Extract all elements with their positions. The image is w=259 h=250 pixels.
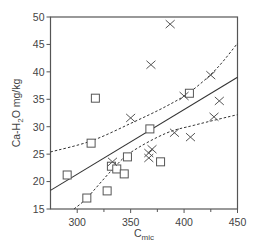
cross-marker	[206, 71, 215, 79]
cross-marker	[144, 154, 153, 162]
y-tick-label: 50	[33, 11, 45, 23]
cross-marker	[148, 145, 157, 153]
square-marker	[113, 165, 121, 173]
square-marker	[146, 125, 154, 133]
cross-marker	[126, 114, 135, 122]
scatter-chart: 3003504004501520253035404550 Cmic Ca-H2O…	[0, 0, 259, 250]
cross-marker	[215, 97, 224, 105]
square-marker	[157, 158, 165, 166]
cross-marker	[209, 113, 218, 121]
regression-line	[51, 77, 238, 190]
regression-lines	[51, 43, 238, 209]
data-markers	[63, 20, 224, 202]
y-tick-label: 25	[33, 148, 45, 160]
x-tick-label: 300	[68, 216, 86, 228]
y-tick-label: 40	[33, 66, 45, 78]
cross-marker	[186, 133, 195, 141]
y-tick-label: 30	[33, 121, 45, 133]
square-marker	[120, 170, 128, 178]
cross-marker	[146, 61, 155, 69]
y-tick-label: 35	[33, 93, 45, 105]
square-marker	[87, 139, 95, 147]
cross-marker	[170, 129, 179, 137]
square-marker	[63, 171, 71, 179]
x-tick-label: 400	[175, 216, 193, 228]
square-marker	[103, 187, 111, 195]
y-tick-label: 20	[33, 175, 45, 187]
square-marker	[83, 194, 91, 202]
x-tick-label: 450	[229, 216, 247, 228]
cross-marker	[166, 20, 175, 28]
y-tick-label: 45	[33, 38, 45, 50]
x-axis-title: Cmic	[134, 227, 154, 242]
y-tick-label: 15	[33, 203, 45, 215]
upper-confidence-line	[51, 43, 238, 152]
y-axis-title: Ca-H2O mg/kg	[10, 79, 25, 148]
square-marker	[123, 153, 131, 161]
square-marker	[91, 94, 99, 102]
